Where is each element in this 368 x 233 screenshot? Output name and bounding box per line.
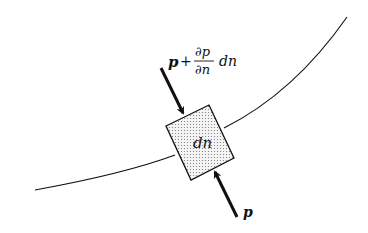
top-pressure-plus: + [180, 53, 192, 69]
diagram-svg: p + ∂p ∂n dn dn p [0, 0, 368, 233]
top-pressure-arrow [161, 68, 183, 113]
top-pressure-frac-den: ∂n [195, 62, 210, 77]
element-label: dn [193, 134, 212, 152]
top-pressure-p: p [168, 53, 179, 71]
diagram-canvas: p + ∂p ∂n dn dn p [0, 0, 368, 233]
top-pressure-dn: dn [219, 53, 237, 69]
bottom-pressure-label: p [243, 204, 253, 220]
bottom-pressure-arrow [215, 172, 237, 217]
top-pressure-frac-num: ∂p [195, 44, 211, 59]
